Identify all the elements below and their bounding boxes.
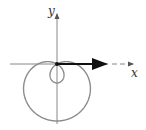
y-axis-label: y [47,4,55,18]
x-axis-label: x [131,66,138,80]
origin-point [55,62,59,66]
polar-plot: y x [0,0,146,130]
